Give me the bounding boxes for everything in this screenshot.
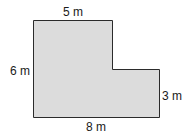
l-shape-polygon bbox=[34, 21, 160, 118]
label-right-height: 3 m bbox=[162, 90, 182, 102]
label-left-height: 6 m bbox=[10, 65, 30, 77]
label-bottom-width: 8 m bbox=[86, 121, 106, 133]
label-top-width: 5 m bbox=[63, 6, 83, 18]
